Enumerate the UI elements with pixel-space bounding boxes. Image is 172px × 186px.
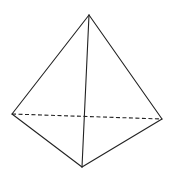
background — [0, 0, 172, 186]
tetrahedron-diagram — [0, 0, 172, 186]
